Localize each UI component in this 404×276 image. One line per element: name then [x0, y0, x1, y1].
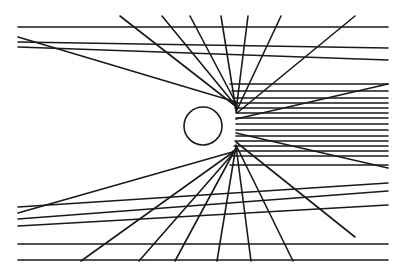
diagram-background — [0, 0, 404, 276]
ray-envelope-diagram — [0, 0, 404, 276]
